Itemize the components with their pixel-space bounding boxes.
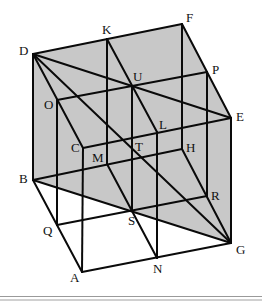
point-label-G: G (236, 242, 245, 257)
point-label-K: K (102, 22, 112, 37)
point-label-U: U (133, 69, 143, 84)
point-label-C: C (71, 140, 80, 155)
point-label-R: R (211, 188, 220, 203)
point-label-F: F (186, 10, 193, 25)
bottom-rule-shadow (0, 299, 262, 301)
bottom-rule (0, 296, 262, 297)
point-label-N: N (153, 261, 163, 276)
point-label-S: S (128, 213, 135, 228)
point-label-L: L (159, 117, 167, 132)
point-label-Q: Q (43, 223, 53, 238)
cube-diagram: DKFOUPCLEMTHBSRQNGA (0, 0, 262, 303)
point-label-T: T (135, 139, 143, 154)
point-label-M: M (92, 150, 104, 165)
point-label-A: A (70, 270, 80, 285)
point-label-H: H (186, 140, 195, 155)
point-label-E: E (236, 109, 244, 124)
point-label-D: D (19, 43, 28, 58)
point-label-P: P (212, 62, 219, 77)
segment-CA (82, 148, 83, 272)
point-label-B: B (19, 171, 28, 186)
point-label-O: O (44, 97, 53, 112)
